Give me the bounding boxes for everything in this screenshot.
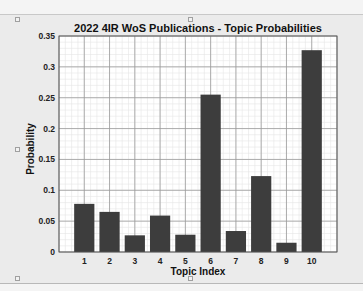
bar-topic-5[interactable] bbox=[175, 235, 195, 252]
x-tick-label: 9 bbox=[284, 256, 289, 266]
y-tick-label: 0 bbox=[50, 247, 55, 257]
bar-topic-1[interactable] bbox=[74, 204, 94, 252]
y-tick-label: 0.2 bbox=[43, 124, 55, 134]
bar-topic-9[interactable] bbox=[276, 243, 296, 252]
y-tick-label: 0.3 bbox=[43, 62, 55, 72]
y-tick-label: 0.35 bbox=[38, 31, 55, 41]
bar-topic-7[interactable] bbox=[226, 231, 246, 252]
y-tick-label: 0.25 bbox=[38, 93, 55, 103]
y-tick-label: 0.1 bbox=[43, 185, 55, 195]
x-tick-label: 5 bbox=[183, 256, 188, 266]
y-tick-label: 0.05 bbox=[38, 216, 55, 226]
bar-chart: 00.050.10.150.20.250.30.3512345678910Top… bbox=[0, 0, 363, 291]
x-tick-label: 7 bbox=[234, 256, 239, 266]
x-tick-label: 4 bbox=[158, 256, 163, 266]
x-tick-label: 8 bbox=[259, 256, 264, 266]
bar-topic-4[interactable] bbox=[150, 216, 170, 252]
bar-topic-10[interactable] bbox=[302, 50, 322, 252]
x-tick-label: 10 bbox=[307, 256, 317, 266]
y-tick-label: 0.15 bbox=[38, 154, 55, 164]
bar-topic-8[interactable] bbox=[251, 176, 271, 252]
x-tick-label: 6 bbox=[208, 256, 213, 266]
bar-topic-6[interactable] bbox=[201, 95, 221, 252]
bar-topic-3[interactable] bbox=[125, 235, 145, 252]
x-tick-label: 1 bbox=[82, 256, 87, 266]
y-axis-label: Probability bbox=[25, 123, 36, 175]
bar-topic-2[interactable] bbox=[99, 212, 119, 252]
x-axis-label: Topic Index bbox=[171, 266, 226, 277]
x-tick-label: 2 bbox=[107, 256, 112, 266]
x-tick-label: 3 bbox=[132, 256, 137, 266]
